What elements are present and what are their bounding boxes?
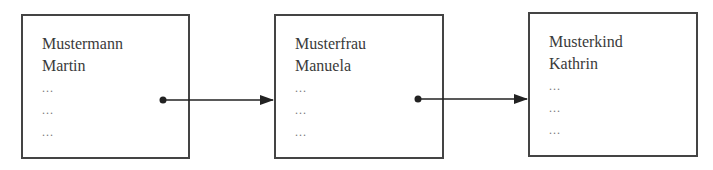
record-box-musterkind: Musterkind Kathrin ... ... ... bbox=[528, 12, 698, 157]
record-firstname: Kathrin bbox=[549, 53, 623, 75]
record-lastname: Mustermann bbox=[42, 33, 123, 55]
record-fields: Mustermann Martin ... ... ... bbox=[42, 33, 123, 143]
record-fields: Musterfrau Manuela ... ... ... bbox=[295, 33, 366, 143]
record-box-mustermann: Mustermann Martin ... ... ... bbox=[21, 14, 190, 159]
record-field-ellipsis: ... bbox=[42, 121, 123, 143]
record-firstname: Manuela bbox=[295, 55, 366, 77]
record-lastname: Musterkind bbox=[549, 31, 623, 53]
record-field-ellipsis: ... bbox=[549, 97, 623, 119]
record-lastname: Musterfrau bbox=[295, 33, 366, 55]
record-field-ellipsis: ... bbox=[549, 119, 623, 141]
record-field-ellipsis: ... bbox=[42, 77, 123, 99]
record-box-musterfrau: Musterfrau Manuela ... ... ... bbox=[274, 14, 444, 159]
record-field-ellipsis: ... bbox=[295, 99, 366, 121]
record-field-ellipsis: ... bbox=[295, 121, 366, 143]
record-field-ellipsis: ... bbox=[42, 99, 123, 121]
record-field-ellipsis: ... bbox=[295, 77, 366, 99]
record-fields: Musterkind Kathrin ... ... ... bbox=[549, 31, 623, 141]
record-firstname: Martin bbox=[42, 55, 123, 77]
record-field-ellipsis: ... bbox=[549, 75, 623, 97]
